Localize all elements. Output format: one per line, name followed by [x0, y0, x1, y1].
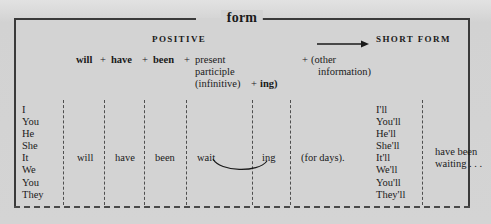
formula-infinitive: (infinitive): [195, 78, 241, 91]
example-object: (for days).: [301, 152, 345, 164]
example-been: been: [155, 152, 175, 164]
example-have: have: [115, 152, 135, 164]
list-item: We'll: [376, 164, 405, 176]
formula-will: will: [76, 54, 92, 67]
list-item: You'll: [376, 177, 405, 189]
list-item: She: [22, 140, 44, 152]
list-item: You'll: [376, 116, 405, 128]
column-separator: [422, 100, 423, 205]
header-row: POSITIVE SHORT FORM: [14, 34, 470, 50]
subject-pronoun-column: I You He She It We You They: [22, 104, 44, 201]
box-border-top-right: [252, 18, 470, 20]
column-separator: [144, 100, 145, 205]
list-item: He'll: [376, 128, 405, 140]
short-form-example-line1: have been: [435, 146, 482, 158]
right-arrow-icon: [317, 40, 369, 48]
form-table-box: form POSITIVE SHORT FORM will + have + b…: [14, 18, 470, 208]
formula-ing: ing): [260, 78, 278, 91]
list-item: She'll: [376, 140, 405, 152]
verb-suffix-link-curve: [212, 158, 268, 174]
list-item: It'll: [376, 152, 405, 164]
short-form-label: SHORT FORM: [376, 34, 451, 44]
formula-plus-5: +: [302, 54, 308, 67]
box-title: form: [221, 10, 263, 26]
list-item: You: [22, 116, 44, 128]
page-background: form POSITIVE SHORT FORM will + have + b…: [0, 0, 491, 224]
formula-been: been: [153, 54, 174, 67]
formula-participle: participle: [195, 66, 235, 79]
formula-plus-4: +: [251, 78, 257, 91]
list-item: I: [22, 104, 44, 116]
formula-row: will + have + been + present participle …: [14, 54, 470, 98]
column-separator: [290, 100, 291, 205]
list-item: We: [22, 164, 44, 176]
formula-plus-1: +: [100, 54, 106, 67]
list-item: He: [22, 128, 44, 140]
formula-plus-3: +: [184, 54, 190, 67]
list-item: They: [22, 189, 44, 201]
list-item: It: [22, 152, 44, 164]
column-separator: [252, 100, 253, 205]
list-item: I'll: [376, 104, 405, 116]
formula-plus-2: +: [142, 54, 148, 67]
column-separator: [63, 100, 64, 205]
positive-label: POSITIVE: [152, 34, 206, 44]
list-item: You: [22, 177, 44, 189]
box-border-top-left: [14, 18, 196, 20]
formula-have: have: [111, 54, 132, 67]
formula-present: present: [195, 54, 225, 67]
conjugation-grid: I You He She It We You They I'll You'll …: [14, 98, 470, 208]
short-form-example: have been waiting . . .: [435, 146, 482, 170]
column-separator: [104, 100, 105, 205]
short-form-column: I'll You'll He'll She'll It'll We'll You…: [376, 104, 405, 201]
column-separator: [186, 100, 187, 205]
example-will: will: [77, 152, 93, 164]
list-item: They'll: [376, 189, 405, 201]
formula-information: information): [318, 66, 371, 79]
formula-other: (other: [311, 54, 336, 67]
short-form-example-line2: waiting . . .: [435, 158, 482, 170]
